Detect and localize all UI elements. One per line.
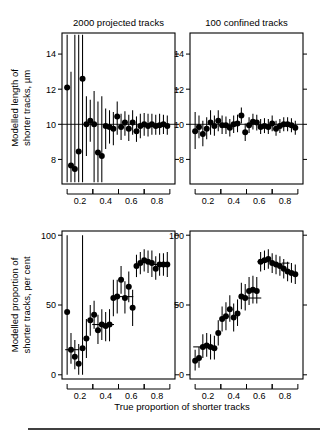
y-tick-label: 8 bbox=[51, 155, 56, 165]
x-tick-label: 0.8 bbox=[151, 196, 164, 206]
x-tick-label: 0.8 bbox=[279, 196, 292, 206]
data-point bbox=[64, 84, 70, 90]
y-tick-label: 100 bbox=[41, 231, 56, 241]
modelled-tracks-figure: 81012140.20.40.60.82000 projected tracks… bbox=[0, 0, 325, 437]
x-brackets-top-right: 0.20.40.60.8 bbox=[195, 189, 298, 206]
data-point bbox=[114, 113, 120, 119]
data-point bbox=[83, 336, 89, 342]
data-point bbox=[254, 288, 260, 294]
x-bracket bbox=[119, 189, 145, 194]
data-point bbox=[122, 295, 128, 301]
data-layer-top-left bbox=[64, 35, 170, 182]
x-bracket bbox=[195, 384, 221, 389]
x-bracket bbox=[144, 189, 170, 194]
x-tick-label: 0.2 bbox=[74, 391, 87, 401]
data-layer-bottom-right bbox=[192, 249, 298, 370]
y-tick-label: 0 bbox=[51, 370, 56, 380]
data-point bbox=[164, 123, 170, 129]
x-tick-label: 0.6 bbox=[125, 391, 138, 401]
data-point bbox=[122, 120, 128, 126]
x-brackets-top-left: 0.20.40.60.8 bbox=[67, 189, 170, 206]
x-bracket bbox=[119, 384, 145, 389]
x-tick-label: 0.4 bbox=[99, 391, 112, 401]
data-point bbox=[149, 260, 155, 266]
y-tick-label: 14 bbox=[46, 49, 56, 59]
data-point bbox=[211, 123, 217, 129]
panel-top-left: 81012140.20.40.60.82000 projected tracks bbox=[46, 17, 179, 206]
x-bracket bbox=[195, 189, 221, 194]
x-tick-label: 0.6 bbox=[125, 196, 138, 206]
y-tick-label: 10 bbox=[174, 120, 184, 130]
y-tick-label: 10 bbox=[46, 120, 56, 130]
data-point bbox=[211, 345, 217, 351]
data-point bbox=[204, 126, 210, 132]
data-point bbox=[126, 284, 132, 290]
panel-frame-top-right bbox=[190, 33, 303, 184]
data-point bbox=[126, 126, 132, 132]
data-point bbox=[242, 295, 248, 301]
x-bracket bbox=[272, 189, 298, 194]
y-axis-title-bottom-line2: shorter tracks, per cent bbox=[21, 256, 32, 354]
x-brackets-bottom-left: 0.20.40.60.8 bbox=[67, 384, 170, 401]
panel-bottom-right: 0501000.20.40.60.8 bbox=[169, 231, 307, 401]
y-tick-label: 8 bbox=[179, 155, 184, 165]
y-tick-label: 50 bbox=[174, 300, 184, 310]
data-point bbox=[80, 345, 86, 351]
data-point bbox=[238, 113, 244, 119]
data-point bbox=[107, 322, 113, 328]
data-point bbox=[87, 317, 93, 323]
data-point bbox=[110, 126, 116, 132]
x-tick-label: 0.8 bbox=[151, 391, 164, 401]
data-point bbox=[196, 355, 202, 361]
y-tick-label: 12 bbox=[174, 85, 184, 95]
x-tick-label: 0.8 bbox=[279, 391, 292, 401]
figure-root: 81012140.20.40.60.82000 projected tracks… bbox=[0, 0, 325, 437]
x-bracket bbox=[221, 189, 247, 194]
data-point bbox=[292, 125, 298, 131]
data-point bbox=[164, 262, 170, 268]
data-point bbox=[292, 271, 298, 277]
x-bracket bbox=[67, 384, 93, 389]
data-point bbox=[235, 120, 241, 126]
y-tick-label: 14 bbox=[174, 49, 184, 59]
data-layer-bottom-left bbox=[64, 235, 170, 375]
x-tick-label: 0.4 bbox=[227, 391, 240, 401]
y-ticks-top-right: 8101214 bbox=[174, 49, 307, 164]
x-bracket bbox=[67, 189, 93, 194]
data-point bbox=[80, 76, 86, 82]
data-point bbox=[91, 312, 97, 318]
y-axis-title-top-line1: Modelled length of bbox=[9, 69, 20, 147]
data-point bbox=[130, 305, 136, 311]
y-axis-title-top-line2: shorter tracks, µm bbox=[21, 70, 32, 146]
x-tick-label: 0.6 bbox=[253, 391, 266, 401]
x-bracket bbox=[247, 189, 273, 194]
data-point bbox=[99, 153, 105, 159]
data-point bbox=[196, 124, 202, 130]
data-point bbox=[91, 121, 97, 127]
x-bracket bbox=[144, 384, 170, 389]
data-layer-top-right bbox=[192, 108, 298, 149]
y-tick-label: 0 bbox=[179, 370, 184, 380]
x-tick-label: 0.6 bbox=[253, 196, 266, 206]
y-tick-label: 50 bbox=[46, 300, 56, 310]
panel-title-top-right: 100 confined tracks bbox=[205, 17, 288, 28]
data-point bbox=[242, 129, 248, 135]
panel-frame-bottom-right bbox=[190, 231, 303, 379]
x-bracket bbox=[247, 384, 273, 389]
data-point bbox=[72, 354, 78, 360]
data-point bbox=[72, 166, 78, 172]
x-bracket bbox=[221, 384, 247, 389]
y-tick-label: 12 bbox=[46, 85, 56, 95]
data-point bbox=[76, 361, 82, 367]
x-bracket bbox=[272, 384, 298, 389]
x-brackets-bottom-right: 0.20.40.60.8 bbox=[195, 384, 298, 401]
data-point bbox=[95, 327, 101, 333]
data-point bbox=[215, 330, 221, 336]
data-point bbox=[68, 347, 74, 353]
x-tick-label: 0.2 bbox=[74, 196, 87, 206]
panel-top-right: 81012140.20.40.60.8100 confined tracks bbox=[174, 17, 307, 206]
y-axis-title-bottom-line1: Modelled proportion of bbox=[9, 257, 20, 352]
data-point bbox=[200, 131, 206, 137]
data-point bbox=[76, 149, 82, 155]
x-tick-label: 0.4 bbox=[99, 196, 112, 206]
